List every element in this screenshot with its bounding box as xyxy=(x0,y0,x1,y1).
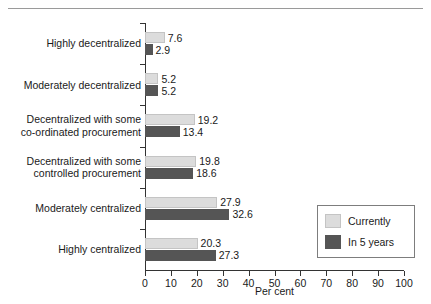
x-axis-tick xyxy=(197,271,198,276)
y-axis-tick xyxy=(140,229,145,230)
x-axis-tick xyxy=(352,271,353,276)
legend-swatch-icon xyxy=(325,235,341,249)
bar-currently xyxy=(145,32,165,43)
category-label: Moderately centralized xyxy=(1,202,141,215)
y-axis-tick xyxy=(140,105,145,106)
bar-value-label: 19.2 xyxy=(198,114,218,126)
bar-value-label: 5.2 xyxy=(161,85,176,97)
x-axis-tick xyxy=(378,271,379,276)
x-axis-tick xyxy=(223,271,224,276)
x-axis-tick xyxy=(275,271,276,276)
bar-chart: 0102030405060708090100 Highly decentrali… xyxy=(0,0,431,304)
bar-value-label: 7.6 xyxy=(168,32,183,44)
x-axis-tick xyxy=(171,271,172,276)
x-axis-tick xyxy=(145,271,146,276)
bar-in-5-years xyxy=(145,250,216,261)
legend-label: In 5 years xyxy=(348,235,394,249)
bar-currently xyxy=(145,197,217,208)
bar-in-5-years xyxy=(145,126,180,137)
bar-value-label: 32.6 xyxy=(232,208,252,220)
y-axis-tick xyxy=(140,64,145,65)
category-label: Decentralized with some controlled procu… xyxy=(1,155,141,180)
legend-label: Currently xyxy=(348,214,391,228)
x-axis-tick xyxy=(404,271,405,276)
category-label: Highly decentralized xyxy=(1,37,141,50)
y-axis-line xyxy=(145,23,146,270)
y-axis-tick xyxy=(140,188,145,189)
bar-in-5-years xyxy=(145,209,229,220)
bar-in-5-years xyxy=(145,85,158,96)
bar-value-label: 20.3 xyxy=(201,237,221,249)
y-axis-tick xyxy=(140,23,145,24)
bar-value-label: 5.2 xyxy=(161,73,176,85)
category-label: Highly centralized xyxy=(1,243,141,256)
bar-value-label: 18.6 xyxy=(196,167,216,179)
bar-value-label: 27.9 xyxy=(220,196,240,208)
chart-legend: CurrentlyIn 5 years xyxy=(317,205,415,258)
x-axis-tick xyxy=(326,271,327,276)
bar-in-5-years xyxy=(145,168,193,179)
category-label: Decentralized with some co-ordinated pro… xyxy=(1,113,141,138)
category-label: Moderately decentralized xyxy=(1,79,141,92)
bar-value-label: 13.4 xyxy=(183,126,203,138)
bar-in-5-years xyxy=(145,44,153,55)
legend-swatch-icon xyxy=(325,214,341,228)
y-axis-tick xyxy=(140,147,145,148)
x-axis-tick xyxy=(249,271,250,276)
bar-currently xyxy=(145,114,195,125)
bar-currently xyxy=(145,156,196,167)
bar-value-label: 19.8 xyxy=(199,155,219,167)
bar-value-label: 27.3 xyxy=(219,249,239,261)
bar-currently xyxy=(145,73,158,84)
bar-value-label: 2.9 xyxy=(156,44,171,56)
x-axis-title: Per cent xyxy=(145,285,404,297)
x-axis-tick xyxy=(300,271,301,276)
bar-currently xyxy=(145,238,198,249)
